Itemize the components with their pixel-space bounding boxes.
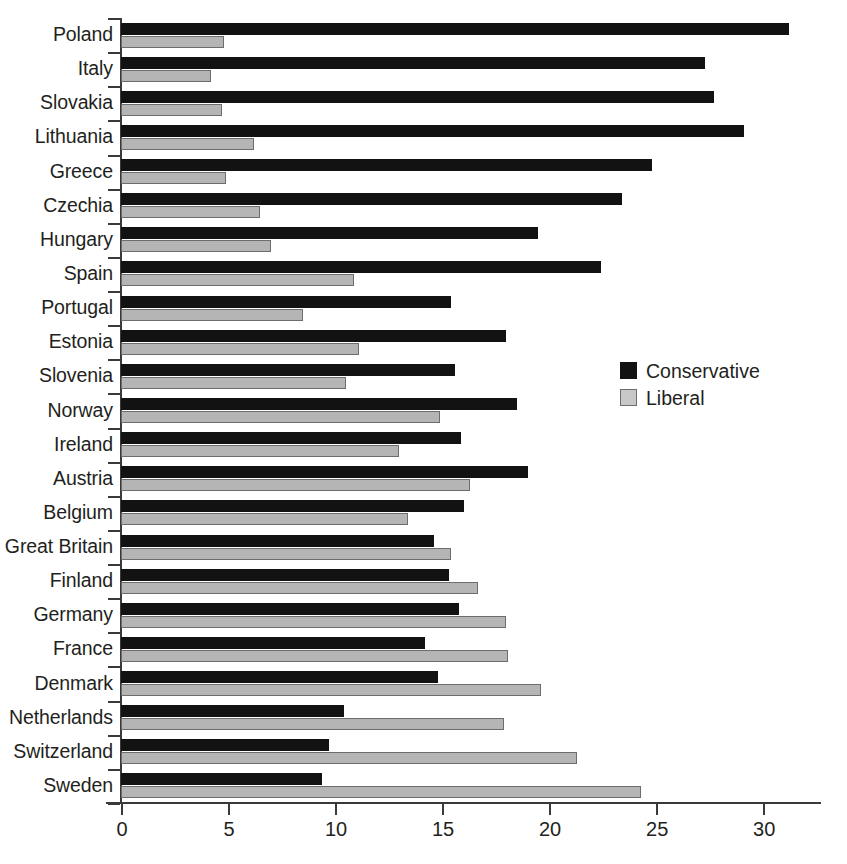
bar-conservative-denmark — [121, 671, 438, 683]
y-axis-label-ireland: Ireland — [0, 435, 113, 455]
x-tick-label-20: 20 — [520, 818, 580, 840]
bar-liberal-germany — [121, 616, 506, 628]
y-tick-mark — [108, 598, 120, 600]
y-tick-mark — [108, 359, 120, 361]
y-tick-mark — [108, 120, 120, 122]
y-axis-label-germany: Germany — [0, 605, 113, 625]
y-axis-label-belgium: Belgium — [0, 503, 113, 523]
bar-conservative-portugal — [121, 296, 451, 308]
y-axis-label-great-britain: Great Britain — [0, 537, 113, 557]
y-tick-mark — [108, 564, 120, 566]
bar-liberal-finland — [121, 582, 478, 594]
bar-liberal-denmark — [121, 684, 541, 696]
bar-conservative-spain — [121, 261, 601, 273]
bar-conservative-hungary — [121, 227, 538, 239]
x-tick-mark — [121, 804, 123, 815]
x-tick-label-30: 30 — [734, 818, 794, 840]
bar-conservative-sweden — [121, 773, 322, 785]
y-tick-mark — [108, 325, 120, 327]
y-axis-label-portugal: Portugal — [0, 298, 113, 318]
bar-conservative-germany — [121, 603, 459, 615]
y-axis-label-czechia: Czechia — [0, 196, 113, 216]
y-tick-mark — [108, 632, 120, 634]
y-axis-label-estonia: Estonia — [0, 332, 113, 352]
bar-liberal-great-britain — [121, 548, 451, 560]
x-tick-mark — [656, 804, 658, 815]
y-tick-mark — [108, 735, 120, 737]
y-tick-mark — [108, 769, 120, 771]
y-axis-label-austria: Austria — [0, 469, 113, 489]
y-axis-label-hungary: Hungary — [0, 230, 113, 250]
bar-liberal-italy — [121, 70, 211, 82]
y-axis-label-greece: Greece — [0, 162, 113, 182]
bar-liberal-portugal — [121, 309, 303, 321]
bar-liberal-sweden — [121, 786, 641, 798]
x-tick-mark — [335, 804, 337, 815]
y-axis-label-poland: Poland — [0, 25, 113, 45]
bar-conservative-belgium — [121, 500, 464, 512]
bar-liberal-switzerland — [121, 752, 577, 764]
y-tick-mark — [108, 291, 120, 293]
y-axis-label-denmark: Denmark — [0, 674, 113, 694]
figure-caption — [0, 852, 847, 864]
bar-liberal-belgium — [121, 513, 408, 525]
legend-item-conservative[interactable]: Conservative — [620, 357, 760, 384]
y-tick-mark — [108, 155, 120, 157]
y-tick-mark — [108, 701, 120, 703]
legend-label-conservative: Conservative — [646, 361, 760, 381]
bar-conservative-great-britain — [121, 535, 434, 547]
bar-conservative-czechia — [121, 193, 622, 205]
bar-conservative-switzerland — [121, 739, 329, 751]
x-tick-mark — [228, 804, 230, 815]
y-axis-label-lithuania: Lithuania — [0, 127, 113, 147]
bar-liberal-france — [121, 650, 508, 662]
y-tick-mark — [108, 462, 120, 464]
y-tick-mark — [108, 223, 120, 225]
bar-liberal-slovakia — [121, 104, 222, 116]
bar-liberal-slovenia — [121, 377, 346, 389]
y-axis-label-sweden: Sweden — [0, 776, 113, 796]
y-tick-mark — [108, 666, 120, 668]
x-tick-mark — [549, 804, 551, 815]
x-tick-mark — [763, 804, 765, 815]
bar-liberal-austria — [121, 479, 470, 491]
y-axis-label-slovakia: Slovakia — [0, 93, 113, 113]
bar-conservative-lithuania — [121, 125, 744, 137]
legend-label-liberal: Liberal — [646, 388, 705, 408]
legend-item-liberal[interactable]: Liberal — [620, 384, 760, 411]
y-tick-mark — [108, 18, 120, 20]
bar-conservative-greece — [121, 159, 652, 171]
y-axis-category-labels: PolandItalySlovakiaLithuaniaGreeceCzechi… — [0, 18, 113, 803]
bar-liberal-hungary — [121, 240, 271, 252]
bar-liberal-greece — [121, 172, 226, 184]
y-axis-label-slovenia: Slovenia — [0, 366, 113, 386]
y-tick-mark — [108, 530, 120, 532]
bar-liberal-netherlands — [121, 718, 504, 730]
legend-swatch-liberal-icon — [620, 389, 637, 406]
y-axis-label-switzerland: Switzerland — [0, 742, 113, 762]
bar-conservative-poland — [121, 23, 789, 35]
x-tick-label-5: 5 — [199, 818, 259, 840]
y-axis-label-netherlands: Netherlands — [0, 708, 113, 728]
y-tick-mark — [108, 52, 120, 54]
bar-conservative-slovakia — [121, 91, 714, 103]
x-tick-label-25: 25 — [627, 818, 687, 840]
y-tick-mark — [108, 496, 120, 498]
x-axis-line — [106, 802, 821, 804]
y-tick-mark — [108, 257, 120, 259]
bar-liberal-poland — [121, 36, 224, 48]
bar-conservative-ireland — [121, 432, 461, 444]
bar-conservative-slovenia — [121, 364, 455, 376]
bar-conservative-france — [121, 637, 425, 649]
bar-liberal-czechia — [121, 206, 260, 218]
bar-conservative-estonia — [121, 330, 506, 342]
bar-conservative-austria — [121, 466, 528, 478]
x-tick-label-0: 0 — [92, 818, 152, 840]
y-axis-label-italy: Italy — [0, 59, 113, 79]
y-tick-mark — [108, 393, 120, 395]
x-tick-mark — [442, 804, 444, 815]
y-axis-label-spain: Spain — [0, 264, 113, 284]
bar-liberal-spain — [121, 274, 354, 286]
bar-conservative-italy — [121, 57, 705, 69]
bar-liberal-norway — [121, 411, 440, 423]
